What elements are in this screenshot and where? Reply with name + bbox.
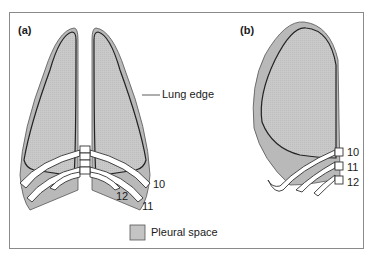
lung-edge-label: Lung edge: [162, 88, 214, 100]
rib-10-label-a: 10: [153, 178, 165, 190]
rib-12-label-a: 12: [116, 190, 128, 202]
panel-b-lung: [253, 22, 340, 185]
rib-12-label-b: 12: [347, 176, 359, 188]
legend-label: Pleural space: [151, 226, 218, 238]
pleura-diagram: [0, 0, 373, 258]
rib-10-label-b: 10: [347, 146, 359, 158]
rib-11-label-a: 11: [142, 200, 153, 212]
legend-swatch: [130, 225, 145, 240]
rib-11-label-b: 11: [347, 161, 358, 173]
panel-b-label: (b): [240, 24, 254, 36]
panel-a-label: (a): [18, 24, 31, 36]
